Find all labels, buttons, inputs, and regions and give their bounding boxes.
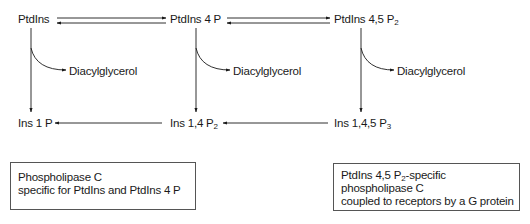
node-diacylglycerol-2: Diacylglycerol — [233, 64, 301, 78]
node-ins14p2: Ins 1,4 P2 — [170, 116, 218, 130]
branch-curve-dag1 — [31, 48, 66, 70]
box-line: Phospholipase C — [18, 171, 188, 184]
node-diacylglycerol-1: Diacylglycerol — [69, 64, 137, 78]
node-ptdins45p2: PtdIns 4,5 P2 — [334, 12, 399, 26]
legend-box-plc-ptdins: Phospholipase C specific for PtdIns and … — [10, 162, 196, 210]
node-label: Diacylglycerol — [69, 65, 137, 77]
node-label: Ins 1,4,5 P — [334, 117, 387, 129]
node-diacylglycerol-3: Diacylglycerol — [397, 64, 465, 78]
node-ins1p: Ins 1 P — [18, 116, 52, 130]
node-label: Diacylglycerol — [233, 65, 301, 77]
branch-curve-dag2 — [196, 48, 230, 70]
node-ptdins4p: PtdIns 4 P — [170, 12, 221, 26]
box-line: specific for PtdIns and PtdIns 4 P — [18, 184, 188, 197]
node-label: PtdIns — [18, 13, 49, 25]
node-label: Diacylglycerol — [397, 65, 465, 77]
node-ins145p3: Ins 1,4,5 P3 — [334, 116, 391, 130]
node-label: Ins 1 P — [18, 117, 52, 129]
legend-box-plc-gprotein: PtdIns 4,5 P2-specific phospholipase C c… — [333, 163, 520, 211]
node-subscript: 2 — [394, 18, 398, 27]
box-line: coupled to receptors by a G protein — [341, 195, 512, 208]
box-line: PtdIns 4,5 P2-specific — [341, 169, 512, 182]
node-label: Ins 1,4 P — [170, 117, 214, 129]
node-label: PtdIns 4,5 P — [334, 13, 394, 25]
branch-curve-dag3 — [361, 48, 394, 70]
box-text: PtdIns 4,5 P — [341, 169, 401, 181]
node-subscript: 2 — [214, 122, 218, 131]
box-line: phospholipase C — [341, 182, 512, 195]
node-subscript: 3 — [387, 122, 391, 131]
box-text: -specific — [406, 169, 446, 181]
node-ptdins: PtdIns — [18, 12, 49, 26]
node-label: PtdIns 4 P — [170, 13, 221, 25]
